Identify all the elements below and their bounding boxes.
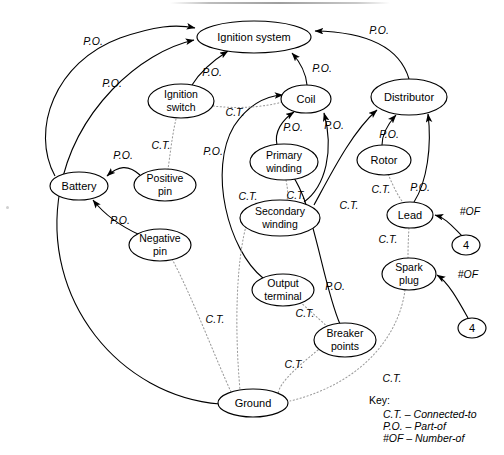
edge-label-po-ground-ignition: P.O. — [102, 77, 122, 89]
edge-label-ct-negativepin-ground: C.T. — [206, 313, 225, 325]
node-label-breaker-points-line1: Breaker — [327, 327, 364, 339]
edge-label-ct-switch-coil: C.T. — [226, 106, 245, 118]
node-label-ignition-system: Ignition system — [217, 31, 290, 43]
node-label-lead: Lead — [398, 209, 422, 221]
node-label-spark-plug-line2: plug — [399, 274, 419, 286]
semantic-network-diagram: P.O. P.O. P.O. P.O. P.O. P.O. P.O. C.T. … — [0, 0, 504, 455]
edge-label-po-lead-distributor: P.O. — [410, 181, 430, 193]
key-title: Key: — [369, 394, 390, 406]
edge-ignition-switch-to-coil — [213, 101, 285, 107]
node-secondary-winding[interactable]: Secondary winding — [240, 200, 320, 236]
node-label-secondary-winding-line1: Secondary — [255, 205, 306, 217]
key-meaning-numberof: Number-of — [415, 432, 465, 444]
edge-label-ct-lead-sparkplug: C.T. — [379, 233, 398, 245]
node-lead[interactable]: Lead — [387, 202, 433, 228]
node-coil[interactable]: Coil — [281, 85, 331, 113]
node-output-terminal[interactable]: Output terminal — [252, 274, 314, 306]
node-label-output-terminal-line2: terminal — [264, 290, 301, 302]
edge-label-ct-outputterminal-breaker: C.T. — [296, 307, 315, 319]
edge-label-po-battery-ignition: P.O. — [83, 35, 103, 47]
node-label-rotor: Rotor — [371, 154, 398, 166]
node-label-negative-pin-line2: pin — [153, 245, 167, 257]
node-label-coil: Coil — [297, 93, 316, 105]
edge-label-ct-sparkplug-ground: C.T. — [383, 372, 402, 384]
key-row-ct: C.T. – Connected-to — [383, 408, 477, 420]
key-meaning-ct: Connected-to — [414, 408, 477, 420]
key-abbr-ct: C.T. — [383, 408, 402, 420]
edge-label-ct-primary-secondary: C.T. — [287, 189, 306, 201]
edge-label-po-primary-coil: P.O. — [283, 121, 303, 133]
diagram-canvas: P.O. P.O. P.O. P.O. P.O. P.O. P.O. C.T. … — [0, 0, 504, 455]
node-four-lead[interactable]: 4 — [452, 235, 480, 255]
node-label-four-lead: 4 — [463, 239, 469, 251]
edge-positive-pin-to-battery — [107, 168, 140, 176]
key-meaning-po: Part-of — [414, 420, 447, 432]
edge-label-ct-rotor-lead: C.T. — [372, 183, 391, 195]
edge-negative-pin-to-ground — [172, 259, 232, 394]
node-label-positive-pin-line2: pin — [158, 185, 172, 197]
node-breaker-points[interactable]: Breaker points — [314, 323, 376, 357]
node-rotor[interactable]: Rotor — [357, 145, 411, 175]
node-primary-winding[interactable]: Primary winding — [250, 144, 318, 180]
edge-label-po-outputterminal-coil: P.O. — [203, 145, 223, 157]
edge-label-ct-secondary-distributor: C.T. — [340, 199, 359, 211]
node-label-output-terminal-line1: Output — [267, 277, 299, 289]
edge-label-ct-breaker-ground: C.T. — [285, 358, 304, 370]
key-abbr-po: P.O. — [383, 420, 403, 432]
key-abbr-numberof: #OF — [383, 432, 404, 444]
node-negative-pin[interactable]: Negative pin — [129, 229, 191, 261]
node-label-spark-plug-line1: Spark — [395, 261, 423, 273]
node-label-secondary-winding-line2: winding — [261, 218, 298, 230]
edge-label-po-positivepin-battery: P.O. — [113, 149, 133, 161]
node-label-battery: Battery — [62, 180, 97, 192]
edge-label-ct-switch-positivepin: C.T. — [152, 139, 171, 151]
edge-label-po-switch-ignition: P.O. — [202, 66, 222, 78]
edge-label-po-rotor-distributor: P.O. — [379, 128, 399, 140]
edge-four-to-lead — [435, 215, 462, 236]
key-row-po: P.O. – Part-of — [383, 420, 447, 432]
edge-four-to-spark-plug — [437, 275, 468, 318]
edge-label-ct-secondary-ground: C.T. — [239, 190, 258, 202]
edge-label-po-coil-ignition: P.O. — [312, 62, 332, 74]
node-label-ground: Ground — [235, 397, 272, 409]
node-label-distributor: Distributor — [384, 91, 434, 103]
edge-output-terminal-to-coil — [222, 95, 283, 278]
node-label-primary-winding-line1: Primary — [266, 149, 303, 161]
node-label-ignition-switch-line2: switch — [166, 101, 195, 113]
node-positive-pin[interactable]: Positive pin — [134, 169, 196, 201]
edge-label-po-negativepin-battery: P.O. — [110, 214, 130, 226]
key-row-numberof: #OF – Number-of — [383, 432, 465, 444]
edge-label-numberof-lead: #OF — [460, 205, 481, 217]
key-legend: Key: C.T. – Connected-to P.O. – Part-of … — [369, 394, 477, 444]
node-label-positive-pin-line1: Positive — [147, 172, 184, 184]
node-spark-plug[interactable]: Spark plug — [382, 258, 436, 290]
node-label-breaker-points-line2: points — [331, 340, 359, 352]
edge-label-po-breaker-primary: P.O. — [325, 280, 345, 292]
node-ground[interactable]: Ground — [218, 389, 288, 417]
node-label-four-spark-plug: 4 — [469, 322, 475, 334]
node-four-spark-plug[interactable]: 4 — [458, 318, 486, 338]
node-ignition-switch[interactable]: Ignition switch — [148, 84, 214, 118]
node-ignition-system[interactable]: Ignition system — [197, 21, 311, 53]
edge-label-po-distributor-ignition: P.O. — [369, 24, 389, 36]
node-label-ignition-switch-line1: Ignition — [164, 88, 198, 100]
edge-label-numberof-sparkplug: #OF — [458, 268, 479, 280]
edge-lead-to-spark-plug — [408, 228, 409, 258]
edge-coil-to-ignition-system — [292, 53, 307, 85]
node-distributor[interactable]: Distributor — [371, 79, 447, 115]
node-label-negative-pin-line1: Negative — [139, 232, 181, 244]
node-battery[interactable]: Battery — [50, 172, 108, 200]
edge-label-po-secondary-coil: P.O. — [324, 119, 344, 131]
node-label-primary-winding-line2: winding — [265, 162, 302, 174]
